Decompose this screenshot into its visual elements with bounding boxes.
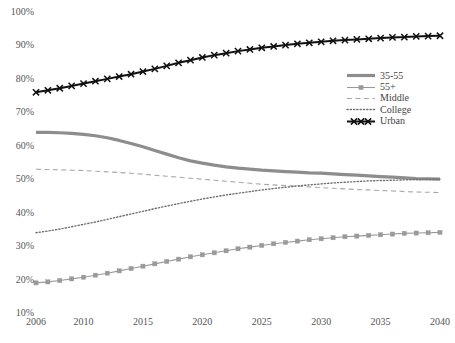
legend-swatch-icon	[346, 104, 376, 115]
data-point-marker	[129, 266, 133, 270]
data-point-marker	[414, 231, 418, 235]
legend-swatch-icon	[346, 116, 376, 127]
data-point-marker	[355, 234, 359, 238]
y-tick-label: 30%	[0, 241, 34, 251]
legend-item-label: 35-55	[376, 71, 403, 81]
x-tick-label: 2010	[64, 317, 104, 327]
x-tick-label: 2015	[123, 317, 163, 327]
data-point-marker	[426, 231, 430, 235]
legend-item-college[interactable]: College	[346, 104, 442, 115]
data-point-marker	[343, 235, 347, 239]
series-line	[36, 169, 440, 192]
data-point-marker	[46, 280, 50, 284]
data-point-marker	[224, 249, 228, 253]
data-point-marker	[295, 239, 299, 243]
y-tick-label: 80%	[0, 74, 34, 84]
legend-item-urban[interactable]: Urban	[346, 116, 442, 127]
y-tick-label: 100%	[0, 7, 34, 17]
data-point-marker	[176, 257, 180, 261]
legend-swatch-icon	[346, 82, 376, 93]
series-55	[34, 230, 442, 285]
data-point-marker	[307, 238, 311, 242]
legend-item-55[interactable]: 55+	[346, 81, 442, 92]
x-tick-label: 2025	[242, 317, 282, 327]
data-point-marker	[105, 271, 109, 275]
data-point-marker	[438, 230, 442, 234]
data-point-marker	[70, 277, 74, 281]
data-point-marker	[367, 233, 371, 237]
data-point-marker	[260, 243, 264, 247]
data-point-marker	[117, 269, 121, 273]
series-line	[36, 132, 440, 179]
data-point-marker	[236, 247, 240, 251]
data-point-marker	[248, 245, 252, 249]
series-college	[36, 179, 440, 233]
data-point-marker	[212, 251, 216, 255]
data-point-marker	[141, 264, 145, 268]
data-point-marker	[200, 253, 204, 257]
data-point-marker	[188, 255, 192, 259]
data-point-marker	[319, 237, 323, 241]
legend-item-label: Urban	[376, 116, 405, 126]
y-tick-label: 40%	[0, 208, 34, 218]
data-point-marker	[93, 273, 97, 277]
series-line	[36, 179, 440, 233]
data-point-marker	[283, 240, 287, 244]
y-tick-label: 60%	[0, 141, 34, 151]
legend-item-middle[interactable]: Middle	[346, 93, 442, 104]
data-point-marker	[402, 231, 406, 235]
data-point-marker	[165, 259, 169, 263]
data-point-marker	[81, 275, 85, 279]
y-tick-label: 70%	[0, 107, 34, 117]
series-35-55	[36, 132, 440, 179]
legend-item-label: 55+	[376, 82, 396, 92]
data-point-marker	[153, 262, 157, 266]
data-point-marker	[58, 278, 62, 282]
legend-item-label: Middle	[376, 93, 409, 103]
x-tick-label: 2006	[16, 317, 56, 327]
y-tick-label: 20%	[0, 275, 34, 285]
legend-item-label: College	[376, 105, 411, 115]
series-middle	[36, 169, 440, 192]
data-point-marker	[331, 236, 335, 240]
data-point-marker	[34, 281, 38, 285]
data-point-marker	[378, 233, 382, 237]
data-point-marker	[390, 232, 394, 236]
y-tick-label: 90%	[0, 40, 34, 50]
data-point-marker	[359, 85, 363, 89]
legend-swatch-icon	[346, 93, 376, 104]
x-tick-label: 2035	[361, 317, 401, 327]
data-point-marker	[272, 242, 276, 246]
legend-item-35-55[interactable]: 35-55	[346, 70, 442, 81]
x-tick-label: 2020	[182, 317, 222, 327]
chart-legend: 35-5555+MiddleCollegeUrban	[346, 70, 442, 127]
x-tick-label: 2030	[301, 317, 341, 327]
legend-swatch-icon	[346, 70, 376, 81]
x-tick-label: 2040	[420, 317, 455, 327]
y-tick-label: 50%	[0, 174, 34, 184]
